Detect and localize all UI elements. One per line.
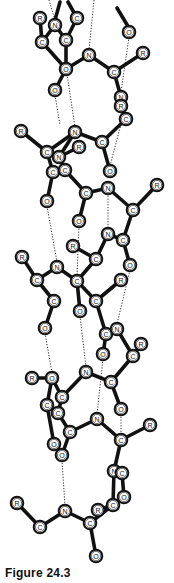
atom-label: C — [67, 429, 72, 436]
atom-label: O — [126, 29, 132, 36]
atom-r: R — [67, 240, 80, 253]
atom-r: R — [151, 179, 164, 192]
atom-label: N — [86, 52, 91, 59]
atom-label: C — [34, 277, 39, 284]
atom-label: R — [147, 422, 152, 429]
atom-o: O — [97, 348, 110, 361]
atom-label: O — [52, 87, 58, 94]
atom-n: N — [59, 505, 72, 518]
atom-label: N — [56, 154, 61, 161]
atom-c: C — [127, 350, 140, 363]
atom-label: C — [103, 331, 108, 338]
atom-c: C — [34, 521, 47, 534]
atom-c: C — [41, 146, 54, 159]
atom-label: N — [114, 326, 119, 333]
atom-label: C — [118, 437, 123, 444]
atom-label: R — [140, 50, 145, 57]
atom-c: C — [31, 274, 44, 287]
atom-c: C — [59, 164, 72, 177]
atom-label: C — [108, 379, 113, 386]
atom-c: C — [52, 407, 65, 420]
atom-c: C — [56, 391, 69, 404]
atom-n: N — [53, 151, 66, 164]
atom-r: R — [115, 100, 128, 113]
atom-c: C — [108, 66, 121, 79]
atom-r: R — [135, 338, 148, 351]
atom-n: N — [49, 19, 62, 32]
atom-label: R — [154, 182, 159, 189]
atom-label: O — [127, 262, 133, 269]
atom-label: C — [50, 169, 55, 176]
atom-label: C — [111, 69, 116, 76]
atom-o: O — [60, 63, 73, 76]
atom-label: O — [100, 351, 106, 358]
atom-label: R — [37, 15, 42, 22]
atom-label: C — [39, 39, 44, 46]
atom-c: C — [71, 12, 84, 25]
atom-label: N — [94, 416, 99, 423]
atom-label: C — [93, 298, 98, 305]
atom-label: N — [83, 369, 88, 376]
atom-label: O — [118, 406, 124, 413]
atom-label: C — [44, 402, 49, 409]
atom-r: R — [73, 141, 86, 154]
atom-label: C — [63, 37, 68, 44]
atom-c: C — [47, 166, 60, 179]
atom-label: C — [87, 520, 92, 527]
atom-label: O — [44, 198, 50, 205]
hydrogen-bond — [55, 95, 60, 125]
atom-label: C — [99, 139, 104, 146]
atom-n: N — [80, 366, 93, 379]
atom-label: R — [29, 375, 34, 382]
atom-o: O — [74, 305, 87, 318]
atom-n: N — [91, 413, 104, 426]
atom-c: C — [84, 517, 97, 530]
atom-r: R — [34, 12, 47, 25]
atom-o: O — [124, 259, 137, 272]
atom-label: C — [62, 167, 67, 174]
atom-n: N — [51, 261, 64, 274]
atom-o: O — [56, 449, 69, 462]
atom-c: C — [80, 187, 93, 200]
hydrogen-bond — [62, 460, 65, 506]
atom-o: O — [90, 550, 103, 563]
atom-label: C — [55, 410, 60, 417]
atom-o: O — [123, 26, 136, 39]
atom-label: C — [120, 237, 125, 244]
atom-label: O — [76, 218, 82, 225]
atom-c: C — [107, 499, 120, 512]
atom-label: C — [130, 207, 135, 214]
atoms: RNCCCOONCRONRCRNRCCNCCOOCNRCONCRCORNCCRC… — [11, 12, 164, 563]
atom-label: C — [83, 190, 88, 197]
alpha-helix-diagram: RNCCCOONCRONRCRNRCCNCCOOCNRCONCRCORNCCRC… — [0, 0, 174, 583]
atom-c: C — [90, 295, 103, 308]
atom-label: R — [138, 341, 143, 348]
atom-c: C — [96, 136, 109, 149]
atom-o: O — [48, 438, 61, 451]
atom-o: O — [118, 491, 131, 504]
atom-label: C — [93, 256, 98, 263]
atom-label: O — [121, 494, 127, 501]
atom-label: R — [14, 500, 19, 507]
hydrogen-bond — [97, 359, 103, 414]
atom-label: R — [70, 243, 75, 250]
atom-o: O — [39, 322, 52, 335]
atom-label: O — [63, 66, 69, 73]
atom-c: C — [41, 399, 54, 412]
hydrogen-bond — [80, 316, 86, 367]
atom-label: C — [59, 394, 64, 401]
atom-label: C — [74, 15, 79, 22]
atom-label: C — [51, 298, 56, 305]
atom-label: O — [42, 325, 48, 332]
atom-label: R — [95, 507, 100, 514]
hydrogen-bond — [89, 0, 94, 50]
atom-o: O — [115, 403, 128, 416]
atom-c: C — [36, 36, 49, 49]
atom-label: O — [51, 441, 57, 448]
atom-n: N — [83, 49, 96, 62]
atom-n: N — [102, 228, 115, 241]
atom-c: C — [120, 113, 133, 126]
atom-label: C — [74, 278, 79, 285]
atom-c: C — [71, 275, 84, 288]
atom-o: O — [46, 372, 59, 385]
